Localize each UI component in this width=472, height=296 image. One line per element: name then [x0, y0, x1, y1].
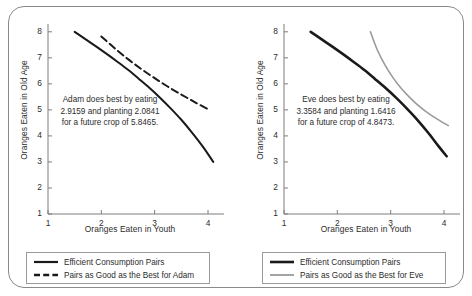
panel-eve: 1234 12345678 Oranges Eaten in Youth Ora…	[236, 0, 472, 296]
y-tick-label-1: 1	[260, 208, 278, 218]
legend-item-efficient-eve: Efficient Consumption Pairs	[269, 255, 400, 269]
legend-item-indifference-eve: Pairs as Good as the Best for Eve	[269, 268, 423, 282]
legend-adam: Efficient Consumption Pairs Pairs as Goo…	[26, 252, 210, 284]
y-tick-label-1: 1	[24, 208, 42, 218]
legend-item-indifference-adam: Pairs as Good as the Best for Adam	[33, 268, 194, 282]
legend-label-efficient-eve: Efficient Consumption Pairs	[300, 258, 400, 267]
panel-adam: 1234 12345678 Oranges Eaten in Youth Ora…	[0, 0, 236, 296]
figure-root: 1234 12345678 Oranges Eaten in Youth Ora…	[0, 0, 472, 296]
x-axis-label-adam: Oranges Eaten in Youth	[40, 224, 220, 234]
legend-label-indifference-adam: Pairs as Good as the Best for Adam	[64, 271, 194, 280]
legend-item-efficient-adam: Efficient Consumption Pairs	[33, 255, 164, 269]
legend-swatch-solid-adam	[33, 257, 59, 267]
y-axis-label-eve: Oranges Eaten in Old Age	[255, 40, 265, 180]
legend-swatch-solid-eve	[269, 257, 295, 267]
annotation-eve: Eve does best by eating 3.3584 and plant…	[292, 94, 400, 129]
y-axis-label-adam: Oranges Eaten in Old Age	[19, 40, 29, 180]
y-tick-label-2: 2	[260, 182, 278, 192]
legend-label-indifference-eve: Pairs as Good as the Best for Eve	[300, 271, 423, 280]
legend-swatch-gray-eve	[269, 270, 295, 280]
legend-eve: Efficient Consumption Pairs Pairs as Goo…	[262, 252, 446, 284]
annotation-adam: Adam does best by eating 2.9159 and plan…	[56, 94, 164, 129]
legend-swatch-dashed-adam	[33, 270, 59, 280]
y-tick-label-8: 8	[24, 26, 42, 36]
x-axis-label-eve: Oranges Eaten in Youth	[276, 224, 456, 234]
legend-label-efficient-adam: Efficient Consumption Pairs	[64, 258, 164, 267]
y-tick-label-2: 2	[24, 182, 42, 192]
y-tick-label-8: 8	[260, 26, 278, 36]
